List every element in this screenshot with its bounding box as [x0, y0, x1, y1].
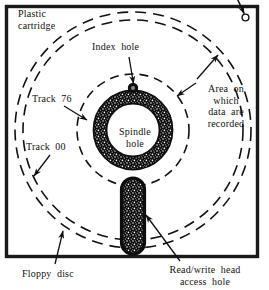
index-hole-leader: [129, 57, 134, 84]
floppy-disc-leader: [55, 231, 63, 264]
spindle-hole-label: Spindle hole: [104, 126, 166, 149]
area-leader-outer: [197, 55, 218, 79]
track-76-label: Track 76: [32, 93, 72, 105]
track-00-label: Track 00: [26, 141, 66, 153]
read-write-head-access-hole-shape: [122, 178, 145, 254]
index-hole-shape: [128, 83, 138, 93]
track-00-leader: [34, 155, 50, 176]
area-recorded-label: Area on which data are recorded: [193, 83, 259, 129]
index-hole-label: Index hole: [92, 41, 139, 53]
plastic-cartridge-label: Plastic cartridge: [18, 8, 55, 31]
read-write-head-access-hole-label: Read/write head access hole: [155, 264, 255, 287]
floppy-disc-label: Floppy disc: [22, 268, 74, 280]
write-protect-hole-icon: [242, 14, 249, 21]
track-76-leader: [64, 106, 87, 120]
write-protect-hole-group: [237, 0, 249, 21]
floppy-disc-diagram: Plastic cartridge Index hole Area on whi…: [0, 0, 269, 290]
